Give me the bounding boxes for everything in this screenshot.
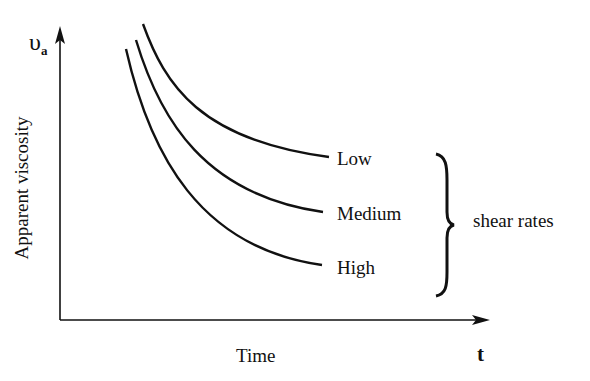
y-axis-label: Apparent viscosity (12, 116, 31, 259)
curve-label-medium: Medium (337, 204, 401, 223)
curve-high (126, 49, 322, 265)
x-axis-symbol: t (477, 344, 484, 365)
curve-medium (136, 40, 323, 212)
brace-label: shear rates (473, 211, 554, 230)
viscosity-time-diagram (0, 0, 590, 381)
x-axis-label: Time (236, 346, 275, 365)
curve-label-high: High (337, 258, 375, 277)
brace-icon (436, 154, 454, 296)
y-axis-symbol: υa (29, 30, 47, 54)
curve-low (143, 24, 329, 157)
curve-label-low: Low (337, 149, 372, 168)
